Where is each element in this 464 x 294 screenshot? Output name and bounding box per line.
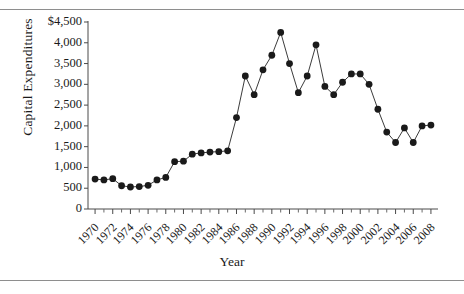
bottom-divider-rule [0,280,464,281]
x-axis-title: Year [0,254,464,270]
x-axis-tick-labels: 1970197219741976197819801982198419861988… [0,9,464,280]
capital-expenditures-chart: Capital Expenditures $4,5004,0003,5003,0… [0,9,464,280]
